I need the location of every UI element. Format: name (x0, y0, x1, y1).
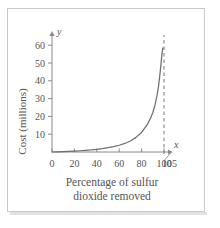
y-tick-label: 60 (35, 40, 45, 51)
x-tick-label: 0 (50, 158, 55, 169)
cost-curve-chart: yx020406080100105102030405060Cost (milli… (0, 0, 220, 228)
cost-curve-path (52, 48, 163, 152)
y-tick-label: 20 (35, 111, 45, 122)
x-axis-caption-line: dioxide removed (73, 190, 151, 202)
x-axis-caption-line: Percentage of sulfur (66, 176, 159, 189)
x-tick-label: 80 (137, 158, 147, 169)
x-tick-label: 105 (162, 158, 177, 169)
y-tick-label: 50 (35, 58, 45, 69)
x-tick-label: 40 (92, 158, 102, 169)
y-tick-label: 40 (35, 75, 45, 86)
x-axis-name-label: x (173, 139, 179, 150)
x-tick-label: 60 (114, 158, 124, 169)
y-axis-title: Cost (millions) (16, 88, 29, 155)
y-axis-arrowhead (49, 31, 54, 36)
x-tick-label: 20 (69, 158, 79, 169)
y-axis-name-label: y (56, 26, 62, 37)
plot-area: yx020406080100105102030405060Cost (milli… (16, 26, 179, 202)
y-tick-label: 10 (35, 129, 45, 140)
y-tick-label: 30 (35, 93, 45, 104)
